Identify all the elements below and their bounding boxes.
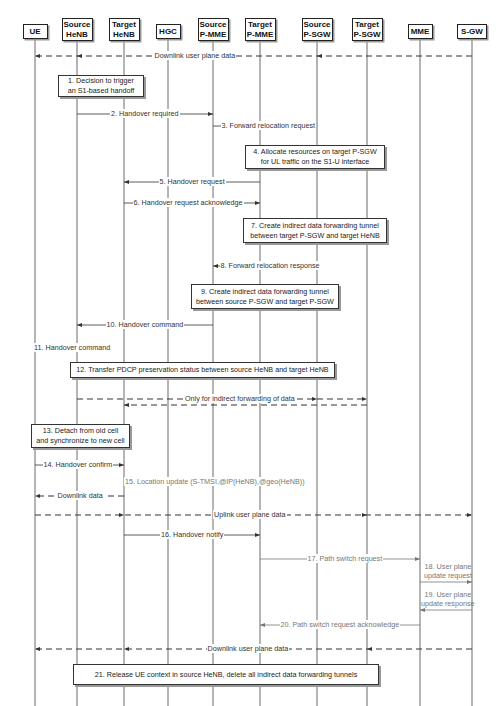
arrowhead-icon	[35, 494, 40, 498]
note-box: 7. Create indirect data forwarding tunne…	[243, 218, 387, 243]
message-label: 8. Forward relocation response	[220, 261, 321, 270]
actor-source-p-mme: Source P-MME	[198, 18, 229, 41]
arrowhead-icon	[35, 54, 40, 58]
message-label: 19. User plane update response	[420, 590, 476, 608]
note-box: 1. Decision to trigger an S1-based hando…	[58, 75, 144, 97]
arrowhead-icon	[119, 463, 124, 467]
arrowhead-icon	[119, 513, 124, 517]
arrowhead-icon	[77, 54, 82, 58]
message-label: 11. Handover command	[33, 343, 111, 352]
message-label: 20. Path switch request acknowledge	[280, 620, 401, 629]
arrowhead-icon	[35, 647, 40, 651]
arrowhead-icon	[367, 647, 372, 651]
message-label: 5. Handover request	[159, 177, 226, 186]
arrowhead-icon	[312, 397, 317, 401]
message-label: 17. Path switch request	[307, 554, 384, 563]
actor-target-henb: Target HeNB	[109, 18, 140, 41]
arrowhead-icon	[467, 580, 472, 584]
arrowhead-icon	[362, 513, 367, 517]
arrowhead-icon	[362, 397, 367, 401]
sequence-diagram: UESource HeNBTarget HeNBHGCSource P-MMET…	[0, 0, 503, 706]
arrowhead-icon	[415, 557, 420, 561]
actor-mme: MME	[408, 24, 433, 39]
arrowhead-icon	[213, 264, 218, 268]
message-label: 16. Handover notify	[160, 530, 224, 539]
arrowhead-icon	[467, 513, 472, 517]
note-box: 13. Detach from old cell and synchronize…	[31, 424, 130, 448]
arrowhead-icon	[124, 403, 129, 407]
actor-hgc: HGC	[156, 24, 181, 39]
actor-target-p-mme: Target P-MME	[245, 18, 276, 41]
actor-source-henb: Source HeNB	[62, 18, 93, 41]
message-label: 18. User plane update request	[423, 562, 473, 580]
arrowhead-icon	[260, 623, 265, 627]
note-box: 9. Create indirect data forwarding tunne…	[191, 284, 339, 309]
message-label: Uplink user plane data	[213, 510, 287, 519]
message-label: 2. Handover required	[110, 109, 180, 118]
arrowhead-icon	[77, 323, 82, 327]
actor-target-p-sgw: Target P-SGW	[352, 18, 383, 41]
message-label: Downlink data	[57, 491, 104, 500]
message-label: Downlink user plane data	[154, 51, 237, 60]
message-label: Only for indirect forwarding of data	[184, 394, 296, 403]
message-label: 10. Handover command	[106, 320, 185, 329]
message-label: Downlink user plane data	[207, 644, 290, 653]
note-box: 12. Transfer PDCP preservation status be…	[70, 362, 335, 378]
arrowhead-icon	[124, 647, 129, 651]
actor-ue: UE	[23, 24, 48, 39]
arrowhead-icon	[317, 54, 322, 58]
arrowhead-icon	[255, 201, 260, 205]
arrowhead-icon	[420, 608, 425, 612]
arrowhead-icon	[255, 533, 260, 537]
message-label: 14. Handover confirm	[43, 460, 114, 469]
note-box: 21. Release UE context in source HeNB, d…	[73, 664, 379, 685]
actor-source-p-sgw: Source P-SGW	[302, 18, 333, 41]
arrowhead-icon	[124, 180, 129, 184]
arrowhead-icon	[208, 112, 213, 116]
note-box: 4. Allocate resources on target P-SGW fo…	[245, 145, 385, 169]
message-label: 6. Handover request acknowledge	[133, 198, 244, 207]
message-label: 3. Forward relocation request	[221, 121, 316, 130]
message-label: 15. Location update (S-TMSI,@IP(HeNB),@g…	[124, 477, 306, 486]
actor-s-gw: S-GW	[457, 24, 487, 39]
